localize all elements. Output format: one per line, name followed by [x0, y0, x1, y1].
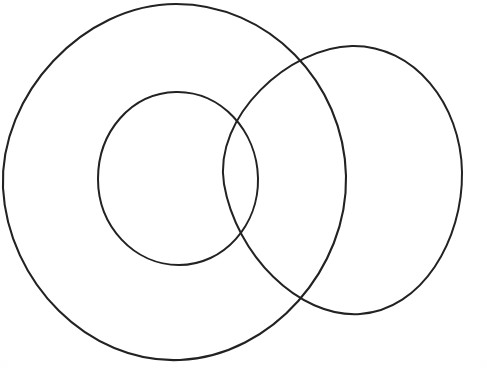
diagram-canvas: [0, 0, 487, 368]
overlapping-circles-diagram: [0, 0, 487, 368]
paper-background: [0, 0, 487, 368]
